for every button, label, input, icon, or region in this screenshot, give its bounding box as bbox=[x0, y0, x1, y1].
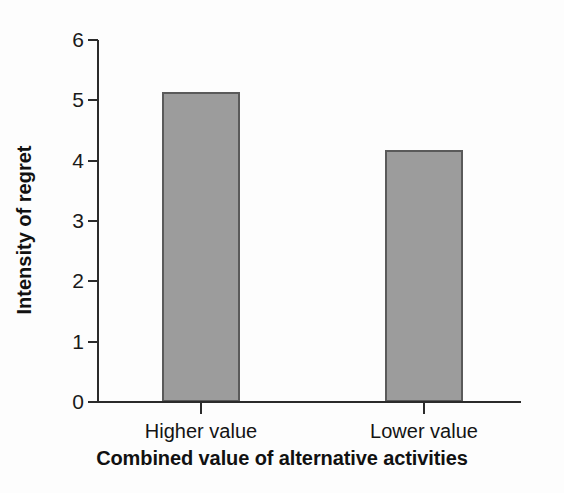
y-axis-tick bbox=[88, 401, 98, 403]
bar-lower-value bbox=[385, 150, 463, 402]
x-axis-title: Combined value of alternative activities bbox=[0, 446, 564, 470]
y-axis-tick-label-text: 4 bbox=[54, 150, 84, 171]
y-axis-tick-label-text: 5 bbox=[54, 89, 84, 110]
x-tick-label-higher-value: Higher value bbox=[91, 419, 311, 443]
y-axis-tick-label: 2 bbox=[52, 270, 84, 291]
x-axis-tick bbox=[423, 403, 425, 414]
y-axis-tick-label-text: 0 bbox=[54, 391, 84, 412]
y-axis-tick bbox=[88, 39, 98, 41]
y-axis-tick-label: 0 bbox=[52, 391, 84, 412]
y-axis-tick-label-text: 3 bbox=[54, 210, 84, 231]
y-axis-tick-label-text: 1 bbox=[54, 331, 84, 352]
x-tick-label-lower-value: Lower value bbox=[314, 419, 534, 443]
x-axis-line bbox=[97, 401, 521, 403]
y-axis-tick bbox=[88, 160, 98, 162]
y-axis-tick-label-text: 6 bbox=[54, 29, 84, 50]
x-axis-tick bbox=[200, 403, 202, 414]
y-axis-tick bbox=[88, 280, 98, 282]
y-axis-title: Intensity of regret bbox=[11, 0, 37, 130]
y-axis-tick bbox=[88, 341, 98, 343]
bar-chart: 0123456 Higher value Lower value Combine… bbox=[0, 0, 564, 493]
bar-higher-value bbox=[162, 92, 240, 402]
y-axis-tick-label-text: 2 bbox=[54, 270, 84, 291]
y-axis-tick-label: 3 bbox=[52, 210, 84, 231]
y-axis-tick bbox=[88, 99, 98, 101]
y-axis-tick-label: 5 bbox=[52, 89, 84, 110]
y-axis-tick bbox=[88, 220, 98, 222]
y-axis-tick-label: 6 bbox=[52, 29, 84, 50]
y-axis-title-text: Intensity of regret bbox=[11, 130, 37, 330]
y-axis-tick-label: 4 bbox=[52, 150, 84, 171]
y-axis-tick-label: 1 bbox=[52, 331, 84, 352]
